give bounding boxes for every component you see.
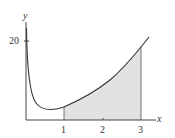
x-tick-label-1: 1 xyxy=(61,124,66,135)
x-tick-label-3: 3 xyxy=(138,124,143,135)
x-axis-label: x xyxy=(157,113,161,124)
y-tick-label-20: 20 xyxy=(9,35,19,46)
x-tick-label-2: 2 xyxy=(100,124,105,135)
y-axis-label: y xyxy=(23,10,27,21)
shaded-area xyxy=(64,47,141,120)
